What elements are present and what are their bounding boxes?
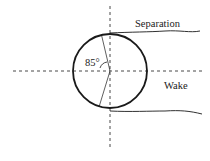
angle-arc (100, 62, 107, 68)
angle-label: 85° (85, 57, 100, 68)
wake-label: Wake (164, 80, 188, 91)
radius-line-lower (99, 71, 110, 107)
separation-label: Separation (135, 18, 181, 29)
radius-line-upper (102, 35, 111, 71)
separation-line-lower (110, 111, 202, 114)
separation-line-upper (110, 31, 200, 33)
diagram-canvas: Separation Wake 85° (0, 0, 210, 161)
